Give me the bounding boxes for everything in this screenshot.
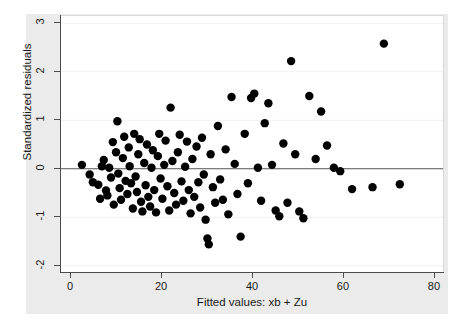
x-tick-label: 60	[328, 280, 358, 292]
data-point	[117, 196, 125, 204]
data-point	[155, 130, 163, 138]
data-point	[380, 39, 388, 47]
data-point	[291, 150, 299, 158]
data-point	[244, 179, 252, 187]
data-point	[201, 215, 209, 223]
y-tick-mark	[54, 22, 60, 23]
data-point	[205, 240, 213, 248]
data-point	[150, 186, 158, 194]
data-point	[183, 137, 191, 145]
data-point	[190, 193, 198, 201]
x-tick-mark	[252, 273, 253, 278]
y-axis-line	[60, 15, 61, 273]
data-point	[163, 182, 171, 190]
data-point	[257, 197, 265, 205]
data-point	[103, 191, 111, 199]
data-point	[172, 200, 180, 208]
data-point	[96, 195, 104, 203]
y-tick-label: 0	[35, 156, 46, 178]
data-point	[216, 175, 224, 183]
plot-area	[61, 15, 444, 273]
x-tick-label: 0	[55, 280, 85, 292]
data-point	[224, 210, 232, 218]
data-point	[279, 139, 287, 147]
data-point	[323, 141, 331, 149]
data-point	[85, 170, 93, 178]
data-point	[140, 159, 148, 167]
data-point	[165, 206, 173, 214]
y-tick-mark	[54, 168, 60, 169]
data-point	[211, 198, 219, 206]
data-point	[170, 189, 178, 197]
data-point	[368, 183, 376, 191]
y-tick-mark	[54, 119, 60, 120]
data-point	[174, 148, 182, 156]
x-tick-mark	[343, 273, 344, 278]
data-point	[396, 180, 404, 188]
data-point	[154, 152, 162, 160]
data-point	[114, 169, 122, 177]
data-point	[241, 130, 249, 138]
data-point	[156, 174, 164, 182]
data-point	[158, 195, 166, 203]
x-tick-mark	[434, 273, 435, 278]
data-point	[305, 92, 313, 100]
x-tick-mark	[70, 273, 71, 278]
data-point	[200, 170, 208, 178]
data-point	[264, 99, 272, 107]
data-point	[123, 190, 131, 198]
data-point	[138, 207, 146, 215]
data-point	[179, 197, 187, 205]
data-point	[175, 131, 183, 139]
data-point	[261, 119, 269, 127]
data-point	[250, 89, 258, 97]
data-point	[109, 138, 117, 146]
data-point	[147, 164, 155, 172]
data-point	[275, 212, 283, 220]
data-point	[161, 136, 169, 144]
data-point	[299, 214, 307, 222]
y-tick-label: 3	[35, 11, 46, 33]
data-point	[188, 155, 196, 163]
y-tick-mark	[54, 216, 60, 217]
data-point	[219, 196, 227, 204]
data-point	[177, 177, 185, 185]
data-point	[283, 198, 291, 206]
data-point	[113, 117, 121, 125]
data-point	[181, 163, 189, 171]
data-point	[209, 183, 217, 191]
data-point	[125, 143, 133, 151]
data-point	[196, 203, 204, 211]
data-point	[141, 181, 149, 189]
data-point	[227, 93, 235, 101]
data-point	[231, 160, 239, 168]
y-axis-title: Standardized residuals	[21, 27, 33, 177]
scatter-plot-figure: -2-10123 020406080 Standardized residual…	[0, 0, 462, 333]
data-point	[221, 145, 229, 153]
data-point	[78, 161, 86, 169]
y-tick-mark	[54, 265, 60, 266]
x-tick-label: 80	[419, 280, 449, 292]
data-point	[214, 122, 222, 130]
data-point	[317, 107, 325, 115]
data-point	[268, 161, 276, 169]
data-point	[135, 135, 143, 143]
data-point	[125, 162, 133, 170]
data-point	[168, 157, 176, 165]
y-tick-label: -2	[35, 253, 46, 275]
data-point	[107, 173, 115, 181]
data-point	[134, 150, 142, 158]
data-point	[186, 209, 194, 217]
data-point	[311, 155, 319, 163]
x-axis-title: Fitted values: xb + Zu	[61, 296, 443, 308]
data-point	[131, 172, 139, 180]
data-point	[152, 208, 160, 216]
data-point	[166, 103, 174, 111]
data-point	[129, 204, 137, 212]
data-point	[110, 200, 118, 208]
data-point	[287, 57, 295, 65]
data-point	[105, 164, 113, 172]
data-point	[194, 178, 202, 186]
data-point	[185, 186, 193, 194]
data-point	[94, 181, 102, 189]
